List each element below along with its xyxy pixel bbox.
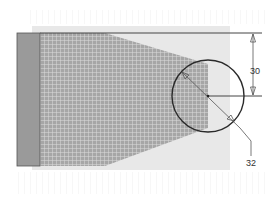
diameter-leader-elbow — [240, 128, 251, 156]
background-texture-bottom — [15, 172, 270, 194]
diameter-dimension-label: 32 — [246, 159, 256, 168]
left-bar — [17, 33, 40, 166]
technical-drawing — [0, 0, 279, 199]
center-point — [207, 95, 210, 98]
background-texture-top — [30, 10, 270, 24]
height-dimension-label: 30 — [250, 67, 260, 76]
